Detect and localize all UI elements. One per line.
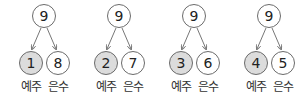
total-circle: 9 xyxy=(107,4,131,28)
total-circle: 9 xyxy=(182,4,206,28)
left-label: 예주 xyxy=(16,77,46,94)
left-part-circle: 2 xyxy=(94,51,118,75)
left-label: 예주 xyxy=(166,77,196,94)
right-label: 은수 xyxy=(43,77,73,94)
right-label: 은수 xyxy=(118,77,148,94)
decomposition-1: 9 1 8 예주 은수 xyxy=(13,0,83,97)
left-label: 예주 xyxy=(91,77,121,94)
right-label: 은수 xyxy=(268,77,298,94)
right-label: 은수 xyxy=(193,77,223,94)
right-part-circle: 5 xyxy=(271,51,295,75)
decomposition-3: 9 3 6 예주 은수 xyxy=(163,0,233,97)
left-part-circle: 3 xyxy=(169,51,193,75)
left-part-circle: 4 xyxy=(244,51,268,75)
right-part-circle: 8 xyxy=(46,51,70,75)
total-circle: 9 xyxy=(257,4,281,28)
left-part-circle: 1 xyxy=(19,51,43,75)
right-part-circle: 6 xyxy=(196,51,220,75)
decomposition-4: 9 4 5 예주 은수 xyxy=(238,0,307,97)
decomposition-2: 9 2 7 예주 은수 xyxy=(88,0,158,97)
right-part-circle: 7 xyxy=(121,51,145,75)
total-circle: 9 xyxy=(32,4,56,28)
left-label: 예주 xyxy=(241,77,271,94)
